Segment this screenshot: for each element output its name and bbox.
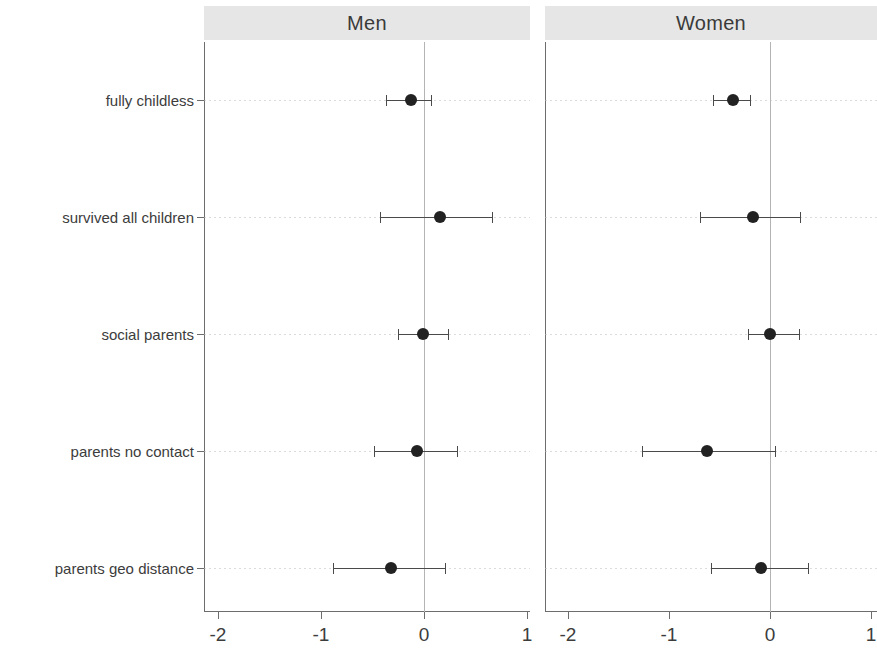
confidence-interval-cap-high <box>808 563 809 574</box>
x-axis-tick-label: 0 <box>419 624 430 646</box>
estimate-point <box>701 445 713 457</box>
confidence-interval-cap-low <box>711 563 712 574</box>
confidence-interval-cap-low <box>374 446 375 457</box>
panel-strip-women: Women <box>545 6 877 40</box>
confidence-interval-cap-low <box>380 212 381 223</box>
row-gridline <box>545 334 877 335</box>
x-axis-tick <box>424 612 425 619</box>
panel-strip-label: Women <box>676 13 746 33</box>
estimate-point <box>434 211 446 223</box>
x-axis-tick-label: 1 <box>522 624 533 646</box>
estimate-point <box>385 562 397 574</box>
confidence-interval-cap-high <box>800 212 801 223</box>
panel-left-axis <box>204 42 205 612</box>
confidence-interval-cap-low <box>398 329 399 340</box>
x-axis-tick-label: -1 <box>313 624 330 646</box>
zero-reference-line <box>770 42 771 612</box>
y-axis-category-label: social parents <box>101 326 194 343</box>
y-axis-category-label: parents no contact <box>71 443 194 460</box>
y-axis-category-label: parents geo distance <box>55 560 194 577</box>
panel-bottom-axis <box>204 611 530 612</box>
panel-men <box>204 42 530 612</box>
y-axis-tick <box>197 568 204 569</box>
row-gridline <box>204 334 530 335</box>
row-gridline <box>204 100 530 101</box>
confidence-interval-cap-low <box>386 95 387 106</box>
x-axis-tick-label: 0 <box>765 624 776 646</box>
estimate-point <box>747 211 759 223</box>
x-axis-tick-label: -1 <box>661 624 678 646</box>
x-axis-tick <box>568 612 569 619</box>
confidence-interval-cap-high <box>448 329 449 340</box>
x-axis-tick-label: 1 <box>866 624 877 646</box>
forest-plot-figure: Men-2-101Women-2-101fully childlesssurvi… <box>0 0 877 660</box>
estimate-point <box>755 562 767 574</box>
estimate-point <box>405 94 417 106</box>
confidence-interval-cap-low <box>700 212 701 223</box>
confidence-interval-cap-high <box>775 446 776 457</box>
row-gridline <box>204 451 530 452</box>
y-axis-tick <box>197 334 204 335</box>
x-axis-tick-label: -2 <box>210 624 227 646</box>
confidence-interval-cap-high <box>799 329 800 340</box>
y-axis-category-label: fully childless <box>106 92 194 109</box>
panel-women <box>545 42 877 612</box>
confidence-interval-cap-high <box>431 95 432 106</box>
confidence-interval-cap-high <box>457 446 458 457</box>
panel-strip-label: Men <box>347 13 387 33</box>
estimate-point <box>417 328 429 340</box>
estimate-point <box>727 94 739 106</box>
y-axis-tick <box>197 217 204 218</box>
zero-reference-line <box>424 42 425 612</box>
confidence-interval-cap-low <box>333 563 334 574</box>
y-axis-tick <box>197 100 204 101</box>
confidence-interval-cap-high <box>492 212 493 223</box>
x-axis-tick <box>218 612 219 619</box>
confidence-interval-cap-high <box>750 95 751 106</box>
y-axis-category-label: survived all children <box>62 209 194 226</box>
x-axis-tick <box>527 612 528 619</box>
confidence-interval-cap-low <box>748 329 749 340</box>
confidence-interval-cap-high <box>445 563 446 574</box>
confidence-interval-cap-low <box>642 446 643 457</box>
x-axis-tick <box>871 612 872 619</box>
x-axis-tick <box>770 612 771 619</box>
estimate-point <box>764 328 776 340</box>
row-gridline <box>545 100 877 101</box>
x-axis-tick <box>321 612 322 619</box>
x-axis-tick <box>669 612 670 619</box>
panel-left-axis <box>545 42 546 612</box>
panel-bottom-axis <box>545 611 877 612</box>
confidence-interval-cap-low <box>713 95 714 106</box>
y-axis-tick <box>197 451 204 452</box>
estimate-point <box>411 445 423 457</box>
x-axis-tick-label: -2 <box>560 624 577 646</box>
panel-strip-men: Men <box>204 6 530 40</box>
